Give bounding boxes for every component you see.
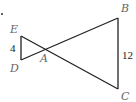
label-C: C [121, 90, 130, 102]
triangle-diagram: E D A B C 4 12 [0, 0, 136, 102]
label-E: E [9, 23, 18, 36]
label-B: B [120, 2, 129, 15]
length-ED: 4 [10, 42, 16, 54]
label-D: D [9, 62, 19, 75]
label-A: A [39, 52, 48, 65]
segment-DB [21, 18, 118, 60]
bullet-dot [1, 13, 3, 15]
segment-EC [21, 36, 118, 89]
length-BC: 12 [122, 49, 133, 61]
